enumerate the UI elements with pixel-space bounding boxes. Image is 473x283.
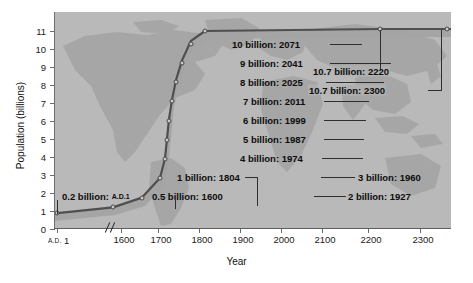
y-tick-10 <box>50 49 55 50</box>
annotation-0-5-billion: 0.5 billion: 1600 <box>152 191 223 202</box>
y-tick-label-8: 8 <box>41 80 46 91</box>
annotation-10-billion: 10 billion: 2071 <box>232 39 300 50</box>
data-point-10-7-billion-2300 <box>445 27 450 32</box>
leader-10-7-2300-h <box>428 90 442 91</box>
x-tick-label-2000: 2000 <box>273 234 294 245</box>
annotation-7-billion: 7 billion: 2011 <box>243 96 305 107</box>
leader-5-billion <box>324 139 364 140</box>
leader-10-7-2220 <box>380 30 381 71</box>
y-tick-label-7: 7 <box>41 98 46 109</box>
y-tick-4 <box>50 157 55 158</box>
x-tick-label-1900: 1900 <box>232 234 253 245</box>
x-tick-label-2300: 2300 <box>412 234 433 245</box>
data-point-1-billion <box>140 195 145 200</box>
y-tick-label-10: 10 <box>35 44 46 55</box>
x-tick-2000 <box>281 229 282 233</box>
y-tick-label-4: 4 <box>41 152 46 163</box>
y-tick-6 <box>50 121 55 122</box>
x-tick-label-ad1: A.D. 1 <box>48 235 69 246</box>
x-tick-label-1700: 1700 <box>150 234 171 245</box>
x-tick-ad1 <box>57 229 58 233</box>
y-tick-7 <box>50 103 55 104</box>
annotation-0-2-billion: 0.2 billion: A.D.1 <box>62 191 130 202</box>
y-tick-label-0: 0 <box>41 224 46 235</box>
data-point-0-5-billion <box>111 205 116 210</box>
annotation-8-billion: 8 billion: 2025 <box>240 77 303 88</box>
leader-10-billion <box>330 44 362 45</box>
data-point-6-billion <box>170 99 175 104</box>
annotation-10-7-billion-2300: 10.7 billion: 2300 <box>308 85 386 96</box>
y-tick-11 <box>50 31 55 32</box>
annotation-0-2-year: A.D.1 <box>112 193 130 200</box>
annotation-10-7-billion-2220: 10.7 billion: 2220 <box>312 66 390 77</box>
leader-0-5-billion <box>175 200 176 209</box>
x-tick-label-1800: 1800 <box>191 234 212 245</box>
annotation-6-billion: 6 billion: 1999 <box>243 115 306 126</box>
leader-10-7-2300-v <box>441 30 442 90</box>
leader-0-2-billion <box>57 200 58 214</box>
leader-6-billion <box>324 120 366 121</box>
y-tick-8 <box>50 85 55 86</box>
leader-3-billion <box>321 177 355 178</box>
x-tick-1700 <box>158 229 159 233</box>
y-tick-label-2: 2 <box>41 188 46 199</box>
annotation-5-billion: 5 billion: 1987 <box>243 134 306 145</box>
data-point-10-billion <box>203 29 208 34</box>
y-tick-3 <box>50 175 55 176</box>
data-point-7-billion <box>174 80 179 85</box>
y-tick-2 <box>50 193 55 194</box>
annotation-9-billion: 9 billion: 2041 <box>240 58 303 69</box>
y-tick-label-3: 3 <box>41 170 46 181</box>
x-tick-label-ad-prefix: A.D. <box>48 237 61 244</box>
x-tick-label-2200: 2200 <box>360 234 381 245</box>
chart-figure: 11 10 9 8 7 6 5 4 3 2 1 0 A.D. 1 1600 17… <box>0 0 473 283</box>
y-tick-label-5: 5 <box>41 134 46 145</box>
data-point-5-billion <box>167 118 172 123</box>
annotation-1-billion: 1 billion: 1804 <box>177 172 240 183</box>
y-tick-9 <box>50 67 55 68</box>
x-tick-1800 <box>199 229 200 233</box>
x-axis-title: Year <box>0 256 473 267</box>
x-tick-1900 <box>240 229 241 233</box>
x-tick-label-2100: 2100 <box>314 234 335 245</box>
x-tick-2200 <box>368 229 369 233</box>
annotation-3-billion: 3 billion: 1960 <box>358 172 421 183</box>
annotation-0-2-text: 0.2 billion: <box>62 191 109 202</box>
annotation-2-billion: 2 billion: 1927 <box>348 191 411 202</box>
y-tick-label-6: 6 <box>41 116 46 127</box>
leader-8-billion <box>326 82 384 83</box>
data-point-9-billion <box>189 41 194 46</box>
x-tick-1600 <box>121 229 122 233</box>
leader-9-billion <box>330 63 391 64</box>
x-tick-2300 <box>420 229 421 233</box>
leader-1-billion-v <box>257 177 258 206</box>
data-point-2-billion <box>158 176 163 181</box>
y-tick-0 <box>50 229 55 230</box>
leader-7-billion <box>324 101 369 102</box>
x-tick-label-1600: 1600 <box>113 234 134 245</box>
y-tick-label-9: 9 <box>41 62 46 73</box>
data-point-4-billion <box>165 137 170 142</box>
y-tick-5 <box>50 139 55 140</box>
data-point-8-billion <box>180 60 185 65</box>
x-tick-2100 <box>322 229 323 233</box>
leader-4-billion <box>322 158 363 159</box>
annotation-4-billion: 4 billion: 1974 <box>240 153 303 164</box>
data-point-3-billion <box>163 157 168 162</box>
axis-break-marks <box>105 222 119 233</box>
y-tick-1 <box>50 211 55 212</box>
y-axis-title: Population (billions) <box>15 51 26 201</box>
y-tick-label-11: 11 <box>36 26 46 37</box>
y-tick-label-1: 1 <box>41 206 46 217</box>
x-tick-label-ad-value: 1 <box>64 235 69 246</box>
leader-2-billion <box>314 196 346 197</box>
